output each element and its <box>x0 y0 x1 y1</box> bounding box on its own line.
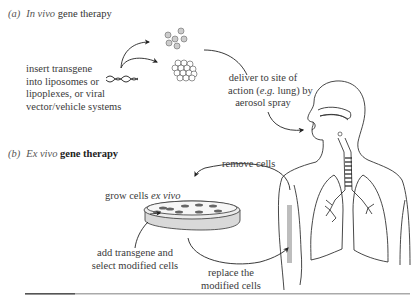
add-transgene-label: add transgene and select modified cells <box>90 247 180 272</box>
arrow-replace-cells-icon <box>188 238 288 264</box>
arrow-to-liposomes-icon <box>121 42 157 68</box>
human-torso-lungs-icon <box>278 81 410 290</box>
remove-cells-label: remove cells <box>222 158 275 171</box>
grow-cells-label: grow cells ex vivo <box>105 190 181 203</box>
deliver-label: deliver to site of action (e.g. lung) by… <box>228 72 298 110</box>
insert-transgene-label: insert transgene into liposomes or lipop… <box>26 63 121 113</box>
panel-b-title: (b)Ex vivo gene therapy <box>8 148 118 161</box>
lipoplex-aggregate-icon <box>172 60 197 81</box>
replace-cells-label: replace the modified cells <box>196 267 266 292</box>
panel-a-title: (a)In vivo gene therapy <box>8 8 112 21</box>
petri-dish-icon <box>144 201 240 230</box>
liposome-cluster-icon <box>165 28 187 49</box>
bottom-rule <box>25 293 410 295</box>
arm-vein-icon <box>287 205 292 263</box>
arrow-to-mouth-icon <box>268 112 303 130</box>
arrow-add-transgene-icon <box>135 222 148 248</box>
